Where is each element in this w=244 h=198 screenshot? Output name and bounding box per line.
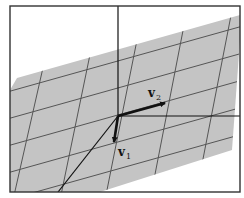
- span-diagram: v 2 v 1: [0, 0, 244, 198]
- svg-text:v: v: [147, 86, 156, 100]
- svg-text:v: v: [117, 145, 126, 159]
- span-plane: [10, 15, 240, 192]
- svg-text:1: 1: [126, 152, 131, 161]
- svg-text:2: 2: [156, 93, 161, 102]
